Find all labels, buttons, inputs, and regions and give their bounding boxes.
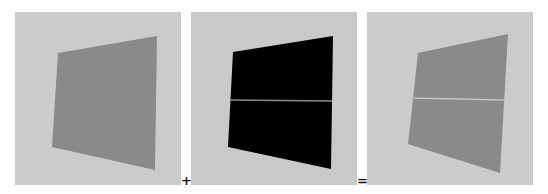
- result-image: [367, 12, 533, 185]
- seam-line: [230, 100, 332, 101]
- result-panel: [367, 12, 533, 185]
- source-texture-panel: [15, 12, 181, 185]
- black-quad: [228, 36, 333, 169]
- textured-quad: [52, 36, 157, 170]
- mask-panel: [191, 12, 357, 185]
- mask-image: [191, 12, 357, 185]
- source-texture-image: [15, 12, 181, 185]
